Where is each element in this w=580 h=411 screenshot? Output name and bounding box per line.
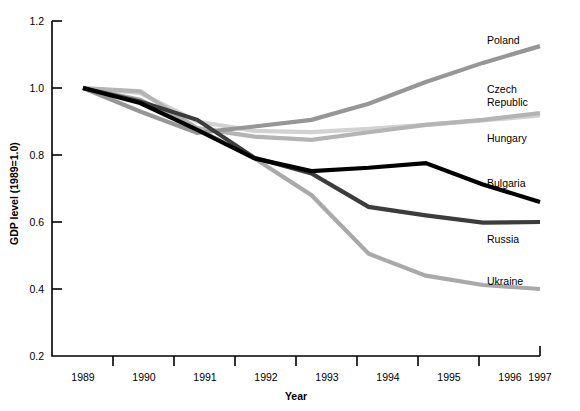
x-tick-label-1993: 1993 <box>315 371 339 383</box>
y-tick-label-1.2: 1.2 <box>29 15 44 27</box>
x-tick-label-1989: 1989 <box>71 371 95 383</box>
y-tick-label-0.6: 0.6 <box>29 216 44 228</box>
y-axis-ticks <box>52 88 62 289</box>
series-label-bulgaria: Bulgaria <box>487 177 526 189</box>
x-tick-label-1990: 1990 <box>132 371 156 383</box>
series-label-russia: Russia <box>487 233 519 245</box>
series-label-czech-line2: Republic <box>487 96 528 108</box>
x-axis-ticks <box>113 356 479 366</box>
x-tick-label-1992: 1992 <box>254 371 278 383</box>
chart-container: 1.2 1.0 0.8 0.6 0.4 0.2 GDP level (1989=… <box>0 0 580 411</box>
x-axis-tick-labels: 1989 1990 1991 1992 1993 1994 1995 1996 … <box>71 371 552 383</box>
series-label-poland: Poland <box>487 34 520 46</box>
series-labels: Poland Czech Republic Hungary Bulgaria R… <box>487 34 528 287</box>
y-axis-tick-labels: 1.2 1.0 0.8 0.6 0.4 0.2 <box>29 15 44 362</box>
data-series-group <box>83 46 540 289</box>
series-label-hungary: Hungary <box>487 132 527 144</box>
x-tick-label-1995: 1995 <box>437 371 461 383</box>
x-tick-label-1997: 1997 <box>528 371 552 383</box>
x-tick-label-1991: 1991 <box>193 371 217 383</box>
x-tick-label-1994: 1994 <box>376 371 400 383</box>
y-tick-label-0.2: 0.2 <box>29 350 44 362</box>
y-tick-label-0.8: 0.8 <box>29 149 44 161</box>
series-label-czech-line1: Czech <box>487 83 517 95</box>
gdp-level-line-chart: 1.2 1.0 0.8 0.6 0.4 0.2 GDP level (1989=… <box>0 0 580 411</box>
y-axis-title: GDP level (1989=1.0) <box>8 142 20 245</box>
x-tick-label-1996: 1996 <box>498 371 522 383</box>
axis-lines <box>52 21 540 356</box>
y-tick-label-1.0: 1.0 <box>29 82 44 94</box>
x-axis-title: Year <box>285 390 307 402</box>
series-label-ukraine: Ukraine <box>487 275 523 287</box>
y-tick-label-0.4: 0.4 <box>29 283 44 295</box>
